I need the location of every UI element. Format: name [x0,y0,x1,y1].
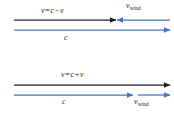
headwind-wind-label: vwind [126,2,141,10]
tailwind-wind-label: vwind [134,98,149,106]
headwind-speed-label: c [64,34,68,42]
headwind-vector-canvas [0,0,174,62]
tailwind-resultant-term-two: v [80,70,84,79]
diagram-panel-tailwind: v=c+v c vwind [0,62,174,124]
headwind-resultant-label: v=c−v [41,7,64,15]
headwind-wind-subscript: wind [130,5,141,11]
tailwind-speed-label: c [62,98,66,106]
vector-diagram-figure: v=c−v vwind c v=c+v c vwind [0,0,174,124]
tailwind-wind-subscript: wind [138,101,149,107]
tailwind-vector-canvas [0,62,174,124]
diagram-panel-headwind: v=c−v vwind c [0,0,174,62]
tailwind-resultant-label: v=c+v [61,71,84,79]
headwind-resultant-term-two: v [60,6,64,15]
